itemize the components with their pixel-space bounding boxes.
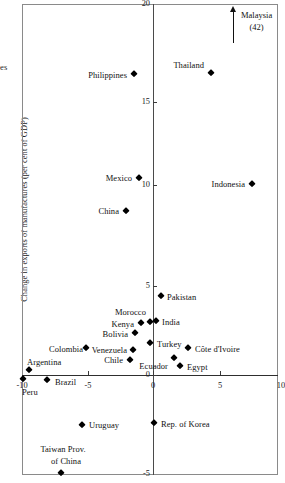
data-point-label: Chile [104, 355, 123, 365]
data-point-label: Egypt [187, 362, 208, 372]
y-tick-label: 15 [128, 97, 150, 106]
data-point-label: Argentina [27, 357, 61, 367]
x-tick-mark [153, 371, 154, 375]
y-tick-mark [153, 102, 157, 103]
malaysia-annotation-name: Malaysia [241, 10, 272, 20]
x-tick-mark [88, 371, 89, 375]
data-point-label: Pakistan [167, 292, 196, 302]
data-point-label: Brazil [55, 377, 76, 387]
malaysia-annotation-value: (42) [241, 22, 272, 34]
malaysia-arrow-shaft [233, 10, 234, 43]
data-point-label: Taiwan Prov. [40, 444, 85, 454]
data-point-label: India [162, 317, 180, 327]
data-point-label: Venezuela [92, 345, 127, 355]
clipped-text-fragment: es [0, 62, 7, 72]
y-tick-label: -5 [128, 469, 150, 478]
y-tick-mark [153, 185, 157, 186]
malaysia-annotation: Malaysia (42) [241, 10, 272, 33]
malaysia-arrow-head [230, 6, 236, 12]
data-point-label: Thailand [173, 60, 204, 70]
plot-frame [22, 4, 278, 475]
data-point-label: Uruguay [89, 420, 119, 430]
data-point-label: Turkey [157, 339, 182, 349]
y-tick-label: 20 [128, 0, 150, 8]
data-point-label: Colombia [49, 344, 83, 354]
scatter-plot-figure: Change in exports of manufactures (per c… [0, 0, 285, 483]
x-tick-label: 5 [208, 381, 232, 390]
y-tick-mark [153, 375, 157, 376]
data-point-label: Bolivia [103, 329, 128, 339]
horizontal-zero-axis [22, 375, 278, 376]
data-point-label: Kenya [112, 319, 134, 329]
data-point-label: Indonesia [212, 179, 246, 189]
y-tick-mark [153, 286, 157, 287]
data-point-label: of China [51, 456, 81, 466]
data-point-label: Morocco [115, 307, 146, 317]
x-tick-mark [220, 371, 221, 375]
y-tick-label: 5 [128, 281, 150, 290]
data-point-label: Rep. of Korea [161, 419, 210, 429]
data-point-label: Mexico [106, 173, 132, 183]
data-point-label: Philippines [88, 70, 127, 80]
data-point-label: Ecuador [139, 361, 168, 371]
data-point-label: China [98, 206, 119, 216]
x-tick-label: 10 [269, 381, 285, 390]
vertical-zero-axis [153, 4, 154, 475]
data-point-label: Peru [22, 387, 38, 397]
x-tick-label: 0 [141, 381, 165, 390]
data-point-label: Côte d'Ivoire [195, 344, 240, 354]
x-tick-label: -5 [76, 381, 100, 390]
y-tick-label: 0 [128, 370, 150, 379]
